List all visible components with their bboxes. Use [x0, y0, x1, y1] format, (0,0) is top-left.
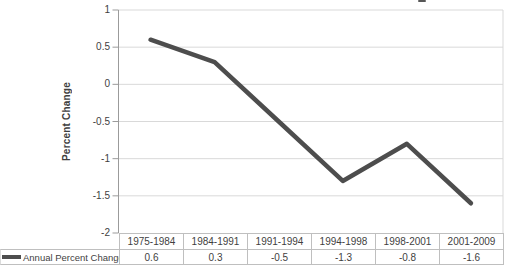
- y-tick-label: -1.5: [70, 190, 110, 202]
- value-cell: -1.3: [311, 250, 375, 264]
- y-tick-label: -0.5: [70, 116, 110, 128]
- y-tick-label: 0: [70, 78, 110, 90]
- value-cell: -1.6: [439, 250, 503, 264]
- y-tick-label: 1: [70, 4, 110, 16]
- y-tick-label: -2: [70, 227, 110, 239]
- cropped-title-fragment: [418, 0, 426, 2]
- legend-cell: Annual Percent Change: [1, 250, 119, 264]
- plot-area: [112, 9, 504, 235]
- legend-label: Annual Percent Change: [23, 252, 119, 263]
- category-cell: 1998-2001: [375, 234, 439, 249]
- category-cell: 1991-1994: [247, 234, 311, 249]
- category-cell: 1994-1998: [311, 234, 375, 249]
- category-cell: 2001-2009: [439, 234, 503, 249]
- category-cell: 1975-1984: [119, 234, 183, 249]
- line-chart-figure: Percent Change 10.50-0.5-1-1.5-2 1975-19…: [0, 0, 505, 268]
- value-cell: -0.5: [247, 250, 311, 264]
- category-cell: 1984-1991: [183, 234, 247, 249]
- data-table-row: Annual Percent Change 0.60.3-0.5-1.3-0.8…: [0, 249, 504, 265]
- legend-line-swatch: [2, 255, 21, 259]
- value-cell: 0.6: [119, 250, 183, 264]
- y-tick-label: -1: [70, 153, 110, 165]
- y-tick-label: 0.5: [70, 41, 110, 53]
- category-header-row: 1975-19841984-19911991-19941994-19981998…: [119, 233, 504, 249]
- value-cell: 0.3: [183, 250, 247, 264]
- value-cell: -0.8: [375, 250, 439, 264]
